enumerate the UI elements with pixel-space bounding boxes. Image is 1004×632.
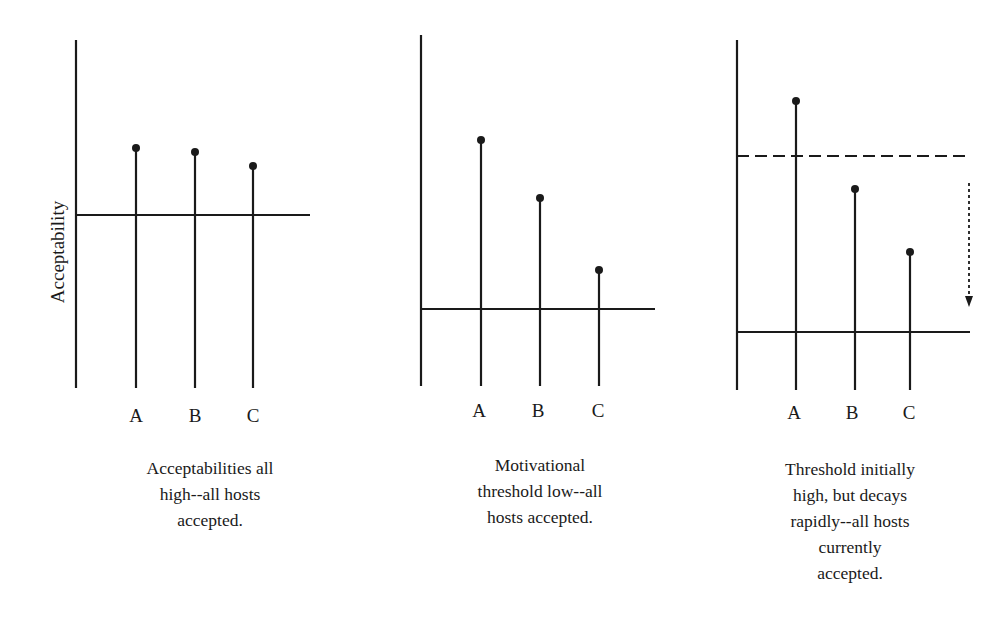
point-b: [191, 148, 199, 156]
tick-label-c: C: [903, 402, 916, 423]
y-axis-label: Acceptability: [47, 200, 68, 303]
point-c: [249, 162, 257, 170]
tick-label-c: C: [592, 400, 605, 421]
caption-line: Motivational: [425, 452, 655, 478]
caption-line: hosts accepted.: [425, 504, 655, 530]
point-c: [595, 266, 603, 274]
caption-panel-1: Acceptabilities all high--all hosts acce…: [95, 455, 325, 533]
caption-panel-3: Threshold initially high, but decays rap…: [735, 456, 965, 586]
panel-3: A B C: [737, 40, 973, 423]
point-a: [477, 136, 485, 144]
caption-line: Threshold initially: [735, 456, 965, 482]
tick-label-b: B: [189, 405, 202, 426]
point-c: [906, 248, 914, 256]
caption-line: accepted.: [735, 560, 965, 586]
tick-label-a: A: [787, 402, 801, 423]
tick-label-a: A: [472, 400, 486, 421]
caption-line: accepted.: [95, 507, 325, 533]
point-b: [851, 185, 859, 193]
tick-label-c: C: [247, 405, 260, 426]
point-b: [536, 194, 544, 202]
panel-1: A B C Acceptability: [47, 40, 310, 426]
tick-label-b: B: [846, 402, 859, 423]
caption-line: rapidly--all hosts: [735, 508, 965, 534]
caption-line: high--all hosts: [95, 481, 325, 507]
point-a: [792, 97, 800, 105]
decay-arrow-icon: [965, 183, 973, 307]
caption-panel-2: Motivational threshold low--all hosts ac…: [425, 452, 655, 530]
caption-line: Acceptabilities all: [95, 455, 325, 481]
tick-label-b: B: [532, 400, 545, 421]
point-a: [132, 144, 140, 152]
caption-line: threshold low--all: [425, 478, 655, 504]
caption-line: high, but decays: [735, 482, 965, 508]
tick-label-a: A: [129, 405, 143, 426]
panel-2: A B C: [421, 35, 655, 421]
caption-line: currently: [735, 534, 965, 560]
